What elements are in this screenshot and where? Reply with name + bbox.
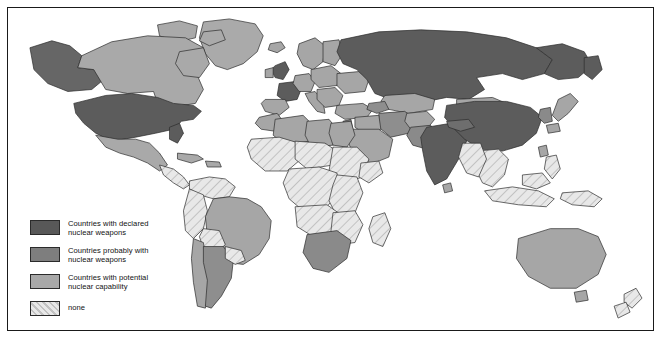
- region-ireland: [265, 68, 273, 78]
- map-legend: Countries with declared nuclear weapons …: [30, 219, 190, 327]
- region-tasmania: [574, 290, 588, 302]
- map-frame: Countries with declared nuclear weapons …: [7, 7, 654, 331]
- legend-item-probable: Countries probably with nuclear weapons: [30, 246, 190, 268]
- region-taiwan: [538, 145, 548, 157]
- region-sri-lanka: [443, 183, 453, 193]
- region-hispaniola: [205, 161, 221, 167]
- screenshot-root: Countries with declared nuclear weapons …: [0, 0, 663, 340]
- legend-item-none: none: [30, 300, 190, 322]
- legend-item-potential: Countries with potential nuclear capabil…: [30, 273, 190, 295]
- legend-label-none: none: [68, 300, 85, 312]
- legend-label-potential: Countries with potential nuclear capabil…: [68, 273, 148, 292]
- legend-swatch-declared: [30, 220, 60, 235]
- legend-label-declared: Countries with declared nuclear weapons: [68, 219, 149, 238]
- legend-label-probable: Countries probably with nuclear weapons: [68, 246, 149, 265]
- legend-swatch-potential: [30, 274, 60, 289]
- legend-swatch-none: [30, 301, 60, 316]
- region-japan-south: [546, 123, 560, 133]
- legend-item-declared: Countries with declared nuclear weapons: [30, 219, 190, 241]
- legend-swatch-probable: [30, 247, 60, 262]
